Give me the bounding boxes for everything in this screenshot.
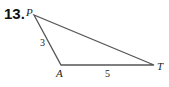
vertex-label-t: T [157,60,164,72]
vertex-label-a: A [55,67,63,79]
triangle-pat [34,15,154,65]
vertex-label-p: P [25,6,33,18]
problem-number: 13. [4,5,25,22]
side-length-at: 5 [105,68,110,79]
triangle-diagram: 13. P A T 3 5 [0,0,169,87]
side-length-pa: 3 [40,37,45,48]
